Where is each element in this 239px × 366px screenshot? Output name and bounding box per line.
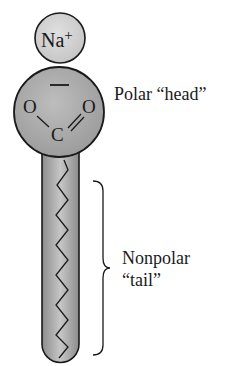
polar-head: O O C — [14, 67, 104, 157]
nonpolar-tail-label-line2: “tail” — [122, 270, 161, 290]
soap-molecule-diagram: O O C Na+ Polar “head” Nonpolar “tail” — [0, 0, 239, 366]
nonpolar-tail — [42, 150, 79, 363]
tail-body — [42, 150, 79, 363]
carbon-label: C — [51, 124, 64, 145]
tail-brace-icon — [93, 181, 110, 355]
left-oxygen-label: O — [23, 96, 37, 117]
right-oxygen-label: O — [82, 96, 96, 117]
sodium-ion: Na+ — [35, 13, 85, 63]
polar-head-label: Polar “head” — [114, 84, 206, 104]
sodium-symbol: Na — [41, 29, 64, 51]
sodium-charge: + — [64, 27, 72, 43]
nonpolar-tail-label-line1: Nonpolar — [122, 248, 190, 268]
